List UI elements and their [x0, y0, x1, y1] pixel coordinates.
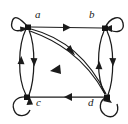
edge-d-to-b: [96, 31, 106, 94]
edge-a-to-d: [31, 29, 106, 94]
directed-graph-figure: a b c d: [0, 0, 128, 124]
edge-d-to-a-arrowhead: [50, 65, 61, 75]
edge-b-to-d: [107, 31, 116, 95]
edge-d-to-a-line: [30, 31, 105, 94]
self-loop-c: [13, 97, 33, 116]
node-label-c: c: [36, 97, 41, 108]
edge-a-to-b: [31, 24, 102, 32]
node-dot-b[interactable]: [102, 26, 108, 32]
edge-a-to-d-line: [31, 29, 106, 94]
edge-c-to-a: [18, 29, 27, 95]
node-label-b: b: [89, 9, 95, 20]
edge-d-to-a: [30, 31, 105, 94]
node-label-a: a: [35, 9, 41, 20]
edge-d-to-b-arrowhead: [96, 61, 103, 69]
edge-d-to-c-arrowhead: [64, 93, 72, 101]
edge-a-to-b-arrowhead: [63, 24, 71, 32]
edge-b-to-d-arrowhead: [109, 58, 116, 67]
edge-a-to-c: [29, 30, 37, 95]
graph-canvas: [0, 0, 128, 124]
node-label-d: d: [88, 97, 94, 108]
edge-a-to-c-arrowhead: [31, 58, 38, 67]
node-dot-d[interactable]: [104, 95, 110, 101]
node-dot-c[interactable]: [24, 95, 30, 101]
node-dot-a[interactable]: [25, 25, 31, 31]
edge-c-to-a-arrowhead: [18, 56, 25, 64]
